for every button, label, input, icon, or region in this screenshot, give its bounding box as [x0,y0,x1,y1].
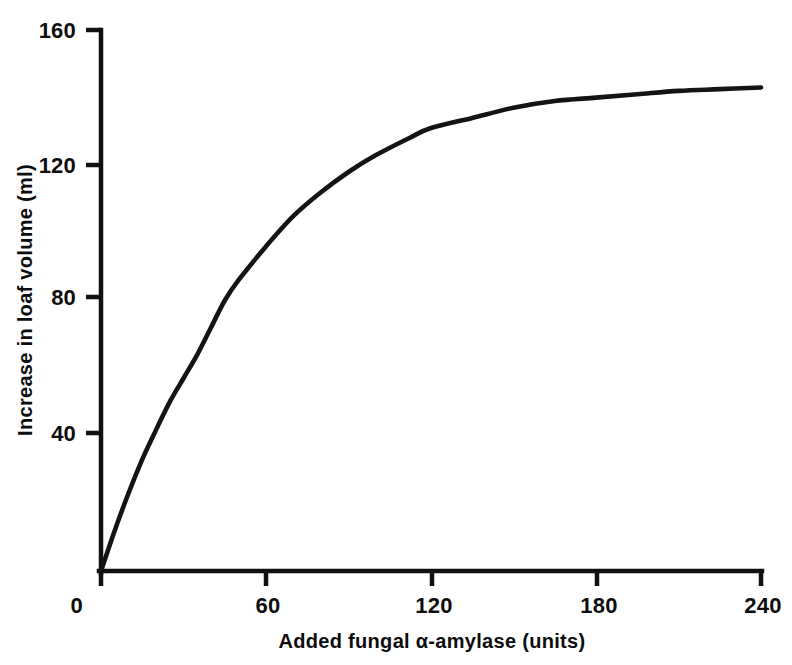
y-axis-title: Increase in loaf volume (ml) [14,164,36,436]
y-tick-label-160: 160 [39,18,76,43]
x-tick-label-240: 240 [744,593,781,618]
x-axis-title: Added fungal α-amylase (units) [279,630,586,652]
y-tick-label-40: 40 [51,421,76,446]
x-tick-label-120: 120 [415,593,452,618]
figure-container: 160 120 80 40 0 60 120 180 240 Added fun… [0,0,792,665]
y-tick-label-0: 0 [71,593,83,618]
x-tick-label-180: 180 [580,593,617,618]
y-tick-label-120: 120 [39,153,76,178]
x-tick-label-60: 60 [256,593,281,618]
data-series-line [101,87,761,571]
line-chart: 160 120 80 40 0 60 120 180 240 Added fun… [0,0,792,665]
y-tick-label-80: 80 [51,285,76,310]
